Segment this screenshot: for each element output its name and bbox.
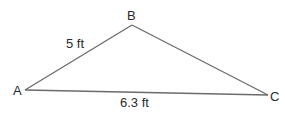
vertex-label-a: A <box>13 84 22 97</box>
side-label-ab: 5 ft <box>66 37 84 50</box>
side-label-ac: 6.3 ft <box>120 96 149 109</box>
vertex-label-c: C <box>270 90 279 103</box>
side-ab <box>25 25 132 90</box>
triangle-diagram: A B C 5 ft 6.3 ft <box>0 0 285 117</box>
side-bc <box>132 25 268 95</box>
vertex-label-b: B <box>127 9 136 22</box>
